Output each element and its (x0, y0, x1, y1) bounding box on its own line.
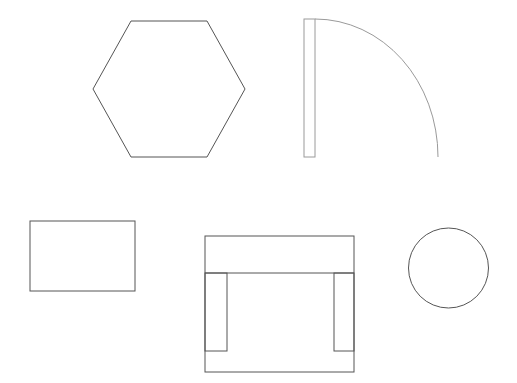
rectangle-shape[interactable] (30, 221, 135, 291)
door-panel (304, 19, 315, 157)
sofa-symbol[interactable] (205, 236, 354, 372)
drawing-canvas (0, 0, 517, 383)
hexagon-shape[interactable] (93, 21, 245, 157)
sofa-right-arm (334, 273, 354, 351)
drawing-svg (0, 0, 517, 383)
sofa-left-arm (205, 273, 227, 351)
door-swing-arc (315, 19, 438, 157)
circle-shape[interactable] (409, 228, 489, 308)
door-symbol[interactable] (304, 19, 438, 157)
